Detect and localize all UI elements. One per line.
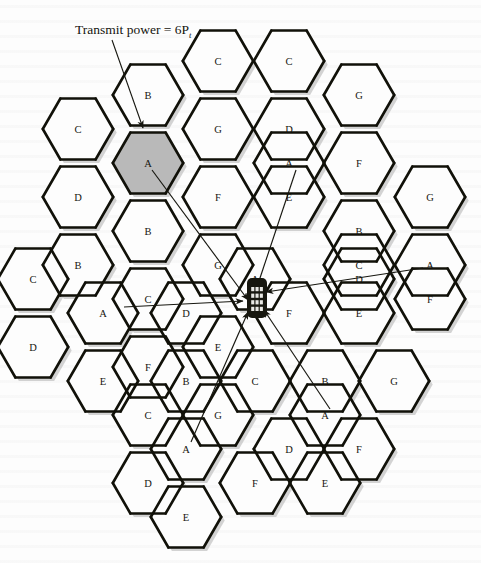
handset-key: [256, 287, 259, 291]
cell-label: F: [215, 192, 221, 203]
cell-label: D: [144, 478, 152, 489]
cell-label: E: [215, 342, 221, 353]
cell-label: C: [144, 410, 151, 421]
cellular-reuse-figure: BCCGCGADFDAFEBBGBCGCAFACDDAFEDFEEBBCGCGA…: [0, 0, 481, 563]
cell-label: B: [74, 260, 81, 271]
handset-key: [251, 287, 254, 291]
cell-label: G: [214, 124, 222, 135]
handset-key: [256, 294, 259, 298]
cell-label: D: [355, 274, 363, 285]
cell-label: C: [29, 274, 36, 285]
cell-label: G: [355, 90, 363, 101]
cell-label: D: [285, 444, 293, 455]
cell-label: C: [355, 260, 362, 271]
cell-label: C: [285, 56, 292, 67]
cell-label: G: [214, 260, 222, 271]
cell-label: E: [356, 308, 362, 319]
handset-key: [251, 307, 254, 311]
cell-label: F: [427, 294, 433, 305]
cell-label: E: [183, 512, 189, 523]
cell-label: B: [182, 376, 189, 387]
cell-label: D: [74, 192, 82, 203]
cell-label: A: [426, 260, 434, 271]
cell-label: F: [356, 444, 362, 455]
cell-label: D: [285, 124, 293, 135]
cell-label: C: [214, 56, 221, 67]
cell-label: B: [144, 226, 151, 237]
cell-label: D: [182, 308, 190, 319]
handset-key: [260, 300, 263, 304]
mobile-handset[interactable]: [247, 278, 267, 318]
handset-key: [260, 307, 263, 311]
handset-key: [260, 294, 263, 298]
cell-label: E: [100, 376, 106, 387]
cell-label: F: [252, 478, 258, 489]
handset-key: [251, 300, 254, 304]
cell-label: F: [145, 362, 151, 373]
handset-key: [260, 287, 263, 291]
cell-label: G: [426, 192, 434, 203]
cell-label: F: [286, 308, 292, 319]
cell-label: A: [182, 444, 190, 455]
cell-label: C: [74, 124, 81, 135]
handset-key: [251, 294, 254, 298]
cell-label: D: [29, 342, 37, 353]
cell-label: A: [144, 158, 152, 169]
cell-label: C: [251, 376, 258, 387]
cell-label: C: [144, 294, 151, 305]
cell-label: F: [356, 158, 362, 169]
cell-label: A: [321, 410, 329, 421]
cell-label: B: [321, 376, 328, 387]
cell-label: A: [99, 308, 107, 319]
cell-label: A: [285, 158, 293, 169]
cell-label: B: [144, 90, 151, 101]
handset-key: [256, 300, 259, 304]
cell-label: B: [355, 226, 362, 237]
cell-label: E: [322, 478, 328, 489]
handset-body: [247, 278, 267, 318]
handset-key: [256, 307, 259, 311]
cell-grid: [0, 31, 465, 548]
cell-label: G: [214, 410, 222, 421]
cell-label: G: [390, 376, 398, 387]
